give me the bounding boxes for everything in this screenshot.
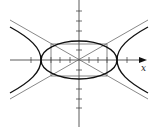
x-axis-label: x — [141, 63, 146, 73]
conic-diagram — [0, 0, 150, 127]
